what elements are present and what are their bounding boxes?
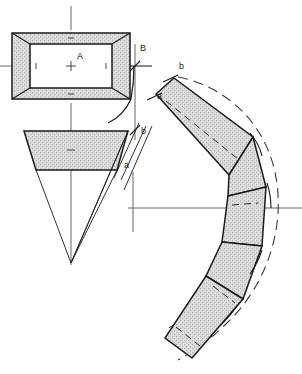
label-A: A [77,52,83,61]
label-B: B [140,44,146,53]
cone-line-left [36,170,71,263]
projection-curve-B [108,99,131,123]
slant-line-to-origin [124,126,152,190]
projection-curve-B-upper [131,66,134,99]
drawing-svg [0,0,302,374]
label-b-elevation: b [141,127,146,136]
label-b-development: b [179,62,184,71]
label-a-elevation: a [124,161,129,170]
cone-line-right [71,170,117,263]
label-a-development: a [157,92,162,101]
technical-drawing-canvas: A B b a b a [0,0,302,374]
development-view [147,75,278,360]
elevation-view [24,131,128,170]
developed-band-segment-3 [222,187,266,246]
plan-view [12,33,130,99]
elevation-trapezoid [24,131,128,170]
